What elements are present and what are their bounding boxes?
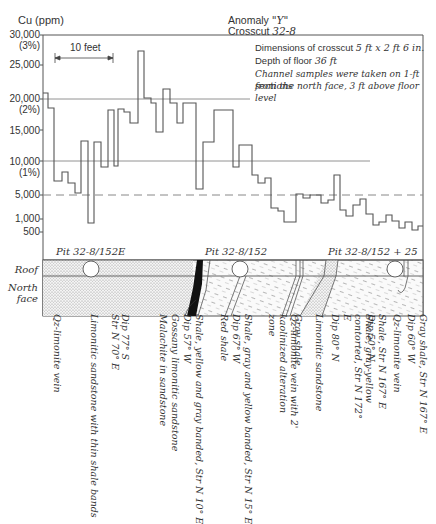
scale-bar	[55, 53, 113, 63]
geo-label: Shale, yellow and gray banded, Str N 10°…	[194, 314, 205, 414]
geo-label: Gray shale, Str N 167° E	[418, 314, 429, 434]
geo-label: Limonitic sandstone with thin shale band…	[88, 314, 100, 429]
geo-label: Gossany limonitic sandstone	[170, 314, 181, 451]
geo-label: Qz-limonite vein	[392, 314, 403, 393]
pit-circle-152-25	[387, 261, 403, 277]
pit-label-152E: Pit 32-8/152E	[56, 246, 125, 257]
roof-label: Roof	[0, 264, 38, 275]
geo-label: Limonitic sandstone	[314, 314, 325, 411]
geo-label: Shale, Str N 167° E	[377, 314, 388, 409]
north-face-label: North face	[0, 282, 38, 304]
geo-label: Red shale	[219, 314, 230, 361]
geo-label: Dip 80° N	[330, 314, 341, 362]
pit-label-152-25: Pit 32-8/152 + 25	[328, 246, 418, 257]
cu-step-histogram	[43, 51, 423, 230]
geo-label: Dip 60° W	[406, 314, 417, 363]
pit-circle-152E	[83, 261, 99, 277]
geo-label: Dip 77° S	[120, 314, 131, 360]
pit-circle-152	[232, 261, 248, 277]
geo-label: Dip 50° N	[366, 314, 377, 362]
pit-label-152: Pit 32-8/152	[205, 246, 267, 257]
cross-section	[43, 260, 423, 316]
geo-label: Gray shale	[293, 314, 304, 366]
geo-label: Malachite in sandstone	[158, 314, 169, 426]
geo-label: Dip 67° W	[231, 314, 242, 363]
geo-label: Qz-limonite vein	[52, 314, 63, 393]
geo-label: Dip 57° W	[182, 314, 193, 363]
geo-label: Shale, gray and yellow banded, Str N 15°…	[243, 314, 254, 414]
